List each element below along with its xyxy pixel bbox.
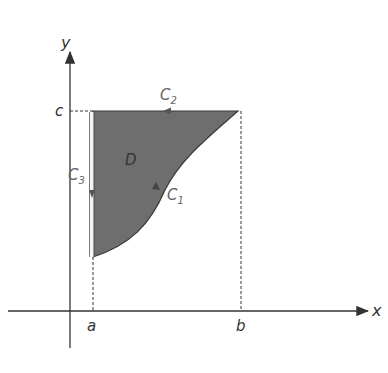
region-d <box>93 111 238 257</box>
tick-label-b: b <box>236 317 246 335</box>
y-axis-label: y <box>60 33 71 52</box>
curve-label-c2: C2 <box>160 86 177 106</box>
tick-label-a: a <box>87 317 96 335</box>
curve-label-c3: C3 <box>68 166 85 186</box>
diagram-canvas: y x c a b D C2 C3 C1 <box>0 0 388 373</box>
x-axis-label: x <box>371 301 382 320</box>
tick-label-c: c <box>55 102 64 120</box>
curve-label-c1: C1 <box>167 186 184 206</box>
region-label-d: D <box>125 151 137 169</box>
